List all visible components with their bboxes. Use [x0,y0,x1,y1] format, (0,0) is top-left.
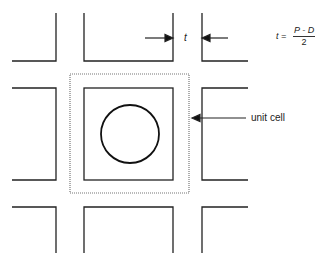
fiber-circle [101,105,159,163]
tile-middle-right [202,88,248,180]
tile-top-center [84,13,173,61]
unit-cell-label: unit cell [251,112,285,123]
arrowhead-left-icon [192,115,200,122]
arrowhead-left-icon [202,35,210,42]
thickness-label: t [184,32,187,43]
tile-middle-left [12,88,56,180]
tile-bottom-left [12,207,56,253]
formula-numerator: P - D [293,25,315,37]
arrowhead-right-icon [165,35,173,42]
formula-fraction: P - D 2 [293,25,315,48]
tile-bottom-center [84,207,173,253]
formula-denominator: 2 [302,37,307,48]
tile-bottom-right [202,207,248,253]
formula-lhs: t = [276,31,286,41]
tile-top-left [12,13,56,61]
unit-cell-border [70,74,189,193]
